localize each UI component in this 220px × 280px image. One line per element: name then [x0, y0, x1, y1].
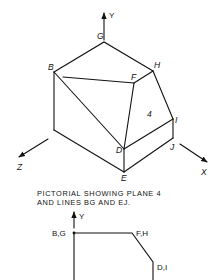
- edge-f-h: [134, 71, 153, 83]
- plane-label: 4: [147, 109, 152, 119]
- x-axis-label: X: [200, 167, 207, 177]
- edge-i-d: [124, 119, 173, 149]
- y-axis-label: Y: [109, 11, 115, 20]
- caption-line-1: PICTORIAL SHOWING PLANE 4: [37, 189, 161, 198]
- vertex-label-h: H: [154, 60, 161, 70]
- z-axis-label: Z: [16, 162, 23, 172]
- vertex-label-j: J: [169, 142, 175, 152]
- front-y-axis-label: Y: [79, 212, 85, 221]
- edge-e-j: [124, 138, 173, 172]
- edge-b-f: [63, 77, 134, 83]
- pictorial-view: Y Z X G B H F I J D E 4: [16, 11, 207, 183]
- point-label-bg: B,G: [52, 229, 66, 238]
- vertex-label-d: D: [116, 145, 122, 155]
- x-axis-arrow: [180, 144, 207, 162]
- edge-bottom-left: [54, 130, 124, 172]
- point-bg: [73, 232, 76, 235]
- edge-h-i: [153, 71, 173, 119]
- vertex-label-b: B: [48, 62, 54, 72]
- z-axis-arrow: [19, 139, 48, 157]
- vertex-label-f: F: [131, 72, 137, 82]
- point-label-fh: F,H: [136, 229, 148, 238]
- edge-b-g-h: [54, 42, 153, 72]
- front-view-outline: [74, 233, 153, 280]
- vertex-label-g: G: [97, 31, 104, 41]
- diagram-canvas: Y Z X G B H F I J D E 4 PICTORIAL SHOWIN…: [0, 0, 220, 280]
- front-view: Y B,G F,H D,I: [52, 212, 167, 280]
- point-label-di: D,I: [157, 263, 167, 272]
- edge-f-d: [124, 83, 134, 149]
- caption-line-2: AND LINES BG AND EJ.: [37, 198, 131, 207]
- edge-b-d: [54, 72, 124, 149]
- vertex-label-i: I: [175, 115, 178, 125]
- vertex-label-e: E: [121, 173, 127, 183]
